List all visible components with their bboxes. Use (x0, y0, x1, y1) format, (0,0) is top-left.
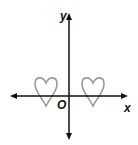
coordinate-plane: y x O (0, 0, 138, 145)
y-axis-label: y (59, 9, 68, 23)
right-heart-shape (82, 78, 104, 106)
left-heart-shape (35, 78, 57, 106)
y-axis-top-arrow-icon (66, 13, 72, 20)
x-axis-label: x (123, 101, 132, 115)
y-axis-bottom-arrow-icon (66, 133, 72, 140)
origin-label: O (57, 98, 67, 112)
x-axis-right-arrow-icon (121, 93, 128, 99)
x-axis-left-arrow-icon (10, 93, 17, 99)
